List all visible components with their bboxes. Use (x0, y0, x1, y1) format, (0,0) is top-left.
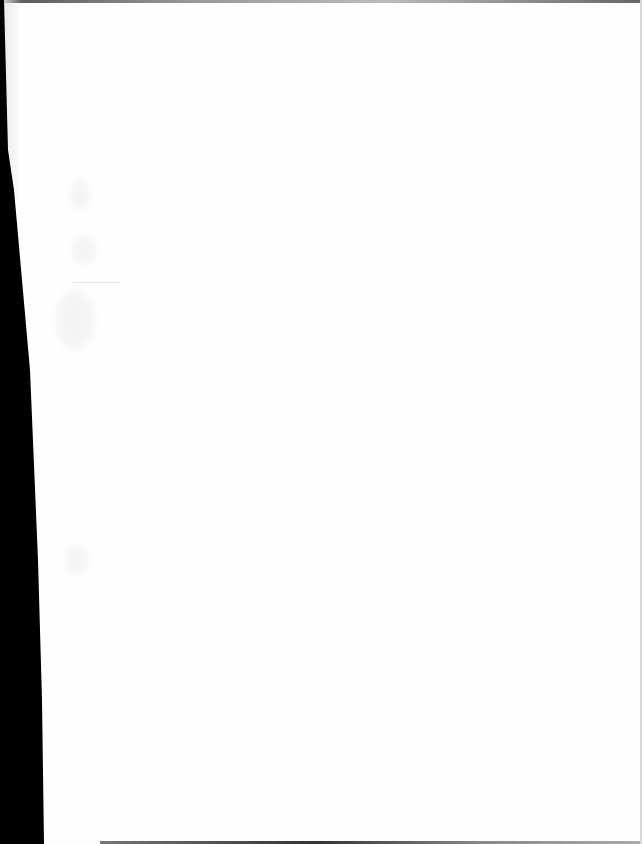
scanned-page (0, 0, 642, 844)
bleed-through-mark (65, 545, 89, 575)
faint-rule (72, 282, 120, 283)
top-scan-edge (0, 0, 642, 3)
left-scan-margin (0, 0, 46, 844)
bleed-through-mark (72, 235, 96, 265)
bleed-through-mark (55, 290, 95, 350)
bleed-through-mark (70, 180, 90, 210)
